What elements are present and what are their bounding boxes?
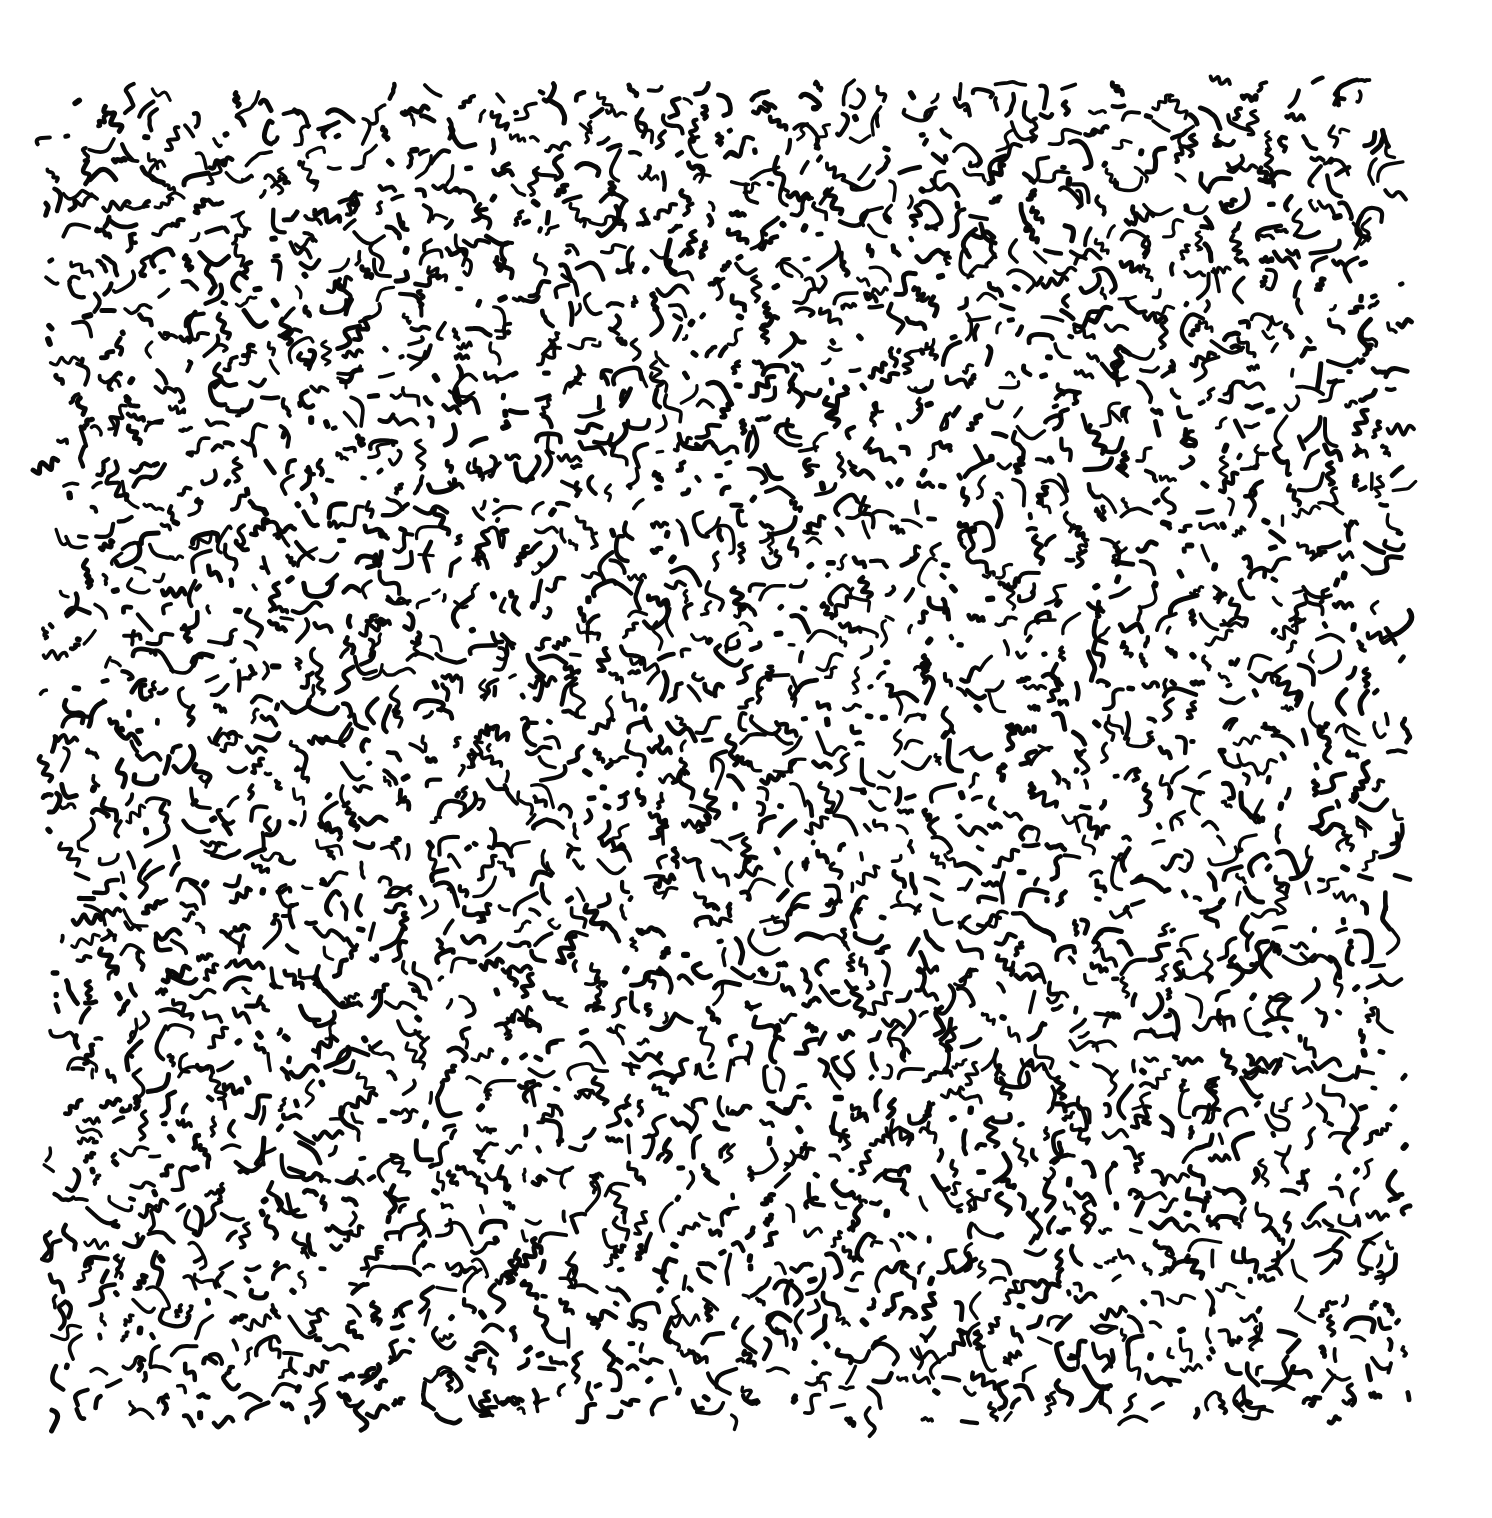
- ink-squiggle: [1323, 1017, 1326, 1025]
- ink-squiggle: [814, 1362, 815, 1363]
- ink-squiggle: [1059, 701, 1067, 704]
- ink-squiggle: [507, 1186, 508, 1189]
- ink-squiggle: [689, 1288, 692, 1290]
- ink-squiggle: [1126, 908, 1128, 911]
- ink-squiggle: [1159, 825, 1160, 827]
- ink-squiggle: [911, 238, 912, 240]
- ink-squiggle: [154, 1192, 155, 1195]
- ink-squiggle: [1126, 220, 1129, 224]
- ink-squiggle: [161, 271, 164, 272]
- ink-squiggle: [582, 1031, 587, 1033]
- ink-squiggle: [357, 436, 363, 445]
- ink-squiggle: [1076, 683, 1078, 699]
- ink-squiggle: [304, 275, 305, 276]
- ink-squiggle: [1234, 108, 1241, 119]
- ink-squiggle: [861, 853, 862, 860]
- ink-squiggle: [1292, 370, 1293, 376]
- ink-squiggle: [831, 380, 832, 383]
- ink-squiggle: [212, 818, 214, 819]
- ink-squiggle: [625, 968, 627, 971]
- ink-squiggle: [500, 298, 504, 300]
- ink-squiggle: [353, 166, 363, 168]
- ink-squiggle: [1104, 163, 1105, 165]
- ink-squiggle: [1324, 624, 1326, 627]
- ink-squiggle: [369, 396, 377, 397]
- ink-squiggle: [805, 259, 809, 260]
- ink-squiggle: [564, 1212, 565, 1222]
- ink-squiggle: [283, 433, 284, 437]
- ink-squiggle: [1165, 1380, 1180, 1382]
- ink-squiggle: [568, 1329, 569, 1347]
- ink-squiggle: [738, 1359, 744, 1361]
- ink-squiggle: [423, 1243, 425, 1245]
- ink-squiggle: [1359, 80, 1370, 81]
- ink-squiggle: [229, 732, 236, 734]
- ink-squiggle: [103, 680, 107, 681]
- ink-squiggle: [1192, 655, 1193, 657]
- ink-squiggle: [1198, 510, 1213, 512]
- ink-squiggle: [82, 359, 83, 362]
- ink-squiggle: [630, 152, 640, 154]
- ink-squiggle: [54, 1296, 56, 1308]
- ink-squiggle: [1362, 1071, 1374, 1073]
- ink-squiggle: [522, 695, 523, 697]
- ink-squiggle: [72, 1068, 83, 1069]
- ink-squiggle: [1133, 995, 1136, 1006]
- ink-squiggle: [211, 1117, 215, 1136]
- ink-squiggle: [952, 726, 954, 733]
- ink-squiggle: [1186, 303, 1187, 305]
- ink-squiggle: [899, 810, 912, 813]
- ink-squiggle: [1392, 1107, 1394, 1110]
- ink-squiggle: [738, 257, 741, 258]
- ink-squiggle: [1242, 96, 1256, 101]
- ink-squiggle: [114, 590, 117, 591]
- ink-squiggle: [1314, 929, 1315, 931]
- ink-squiggle: [761, 1121, 773, 1126]
- ink-squiggle: [1364, 1051, 1365, 1054]
- ink-squiggle: [163, 1395, 167, 1414]
- ink-squiggle: [319, 1047, 320, 1058]
- ink-squiggle: [1400, 284, 1402, 285]
- ink-squiggle: [709, 216, 712, 226]
- ink-squiggle: [907, 796, 915, 799]
- ink-squiggle: [888, 483, 891, 486]
- ink-squiggle: [523, 1169, 525, 1181]
- ink-squiggle: [1075, 1008, 1076, 1013]
- ink-squiggle: [431, 1165, 434, 1166]
- ink-squiggle: [497, 519, 498, 521]
- ink-squiggle: [359, 929, 363, 930]
- ink-squiggle: [826, 1344, 827, 1346]
- ink-squiggle: [765, 103, 768, 105]
- ink-squiggle: [276, 1263, 278, 1266]
- ink-squiggle: [871, 1202, 880, 1204]
- ink-squiggle: [627, 1121, 630, 1124]
- ink-squiggle: [495, 687, 496, 695]
- ink-squiggle: [253, 585, 256, 589]
- ink-squiggle: [307, 1418, 308, 1422]
- ink-squiggle: [778, 1026, 779, 1030]
- ink-squiggle: [778, 963, 786, 966]
- ink-squiggle: [1085, 781, 1087, 788]
- ink-squiggle: [1030, 514, 1031, 518]
- ink-squiggle: [278, 1126, 281, 1130]
- ink-squiggle: [389, 161, 392, 164]
- ink-squiggle: [862, 385, 865, 388]
- ink-squiggle: [708, 640, 710, 642]
- ink-squiggle: [678, 1389, 679, 1393]
- ink-squiggle: [425, 1122, 427, 1126]
- ink-squiggle: [1258, 1308, 1260, 1311]
- ink-squiggle: [429, 843, 432, 847]
- ink-squiggle: [274, 301, 277, 305]
- ink-squiggle: [594, 995, 599, 1010]
- ink-squiggle: [1169, 790, 1171, 798]
- ink-squiggle: [1015, 287, 1018, 289]
- ink-squiggle: [1095, 722, 1098, 725]
- ink-squiggle: [1005, 1362, 1011, 1364]
- ink-squiggle: [48, 830, 50, 832]
- ink-squiggle: [117, 994, 119, 998]
- ink-squiggle: [619, 1269, 622, 1270]
- ink-squiggle: [1068, 1291, 1069, 1294]
- ink-squiggle: [572, 465, 580, 468]
- ink-squiggle: [1095, 1013, 1107, 1015]
- ink-squiggle: [983, 882, 998, 885]
